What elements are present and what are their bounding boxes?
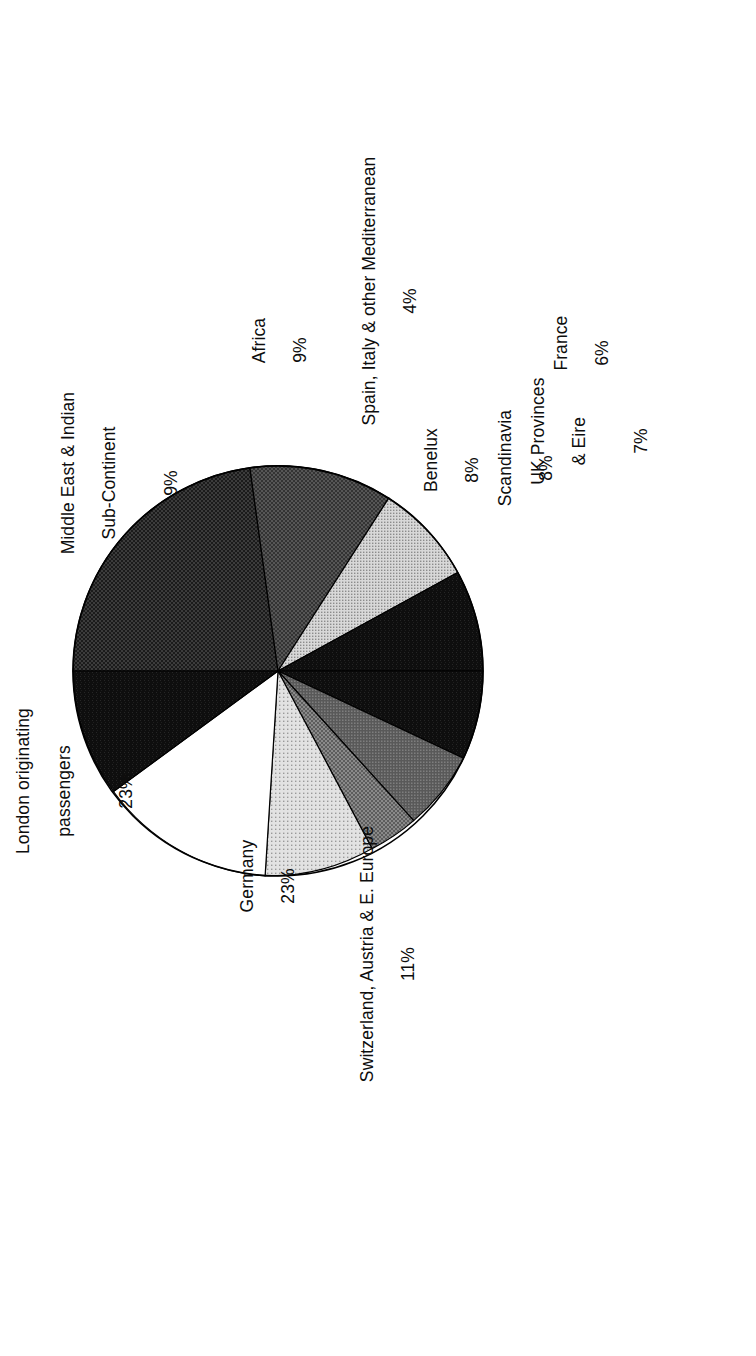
pie-label-switzerland-percent: 11% (398, 826, 419, 1102)
pie-label-middleeast-text-1: Middle East & Indian (58, 392, 78, 555)
pie-label-germany: Germany 23% (216, 840, 340, 933)
pie-label-ukprov-text-2: & Eire (569, 377, 590, 504)
pie-label-germany-text: Germany (237, 840, 257, 913)
pie-label-middleeast-percent: 9% (161, 392, 182, 574)
pie-label-france-text: France (551, 316, 571, 371)
pie-label-switzerland-text: Switzerland, Austria & E. Europe (357, 826, 377, 1082)
pie-label-london-originating-passengers: London originating passengers 23% (0, 708, 178, 874)
pie-label-africa-percent: 9% (290, 318, 311, 382)
pie-label-france-percent: 6% (592, 316, 613, 391)
pie-label-germany-percent: 23% (278, 840, 299, 933)
pie-label-france: France 6% (530, 316, 654, 391)
pie-label-switzerland-austria-e-europe: Switzerland, Austria & E. Europe 11% (336, 826, 460, 1102)
pie-label-london-percent: 23% (116, 708, 137, 874)
pie-label-africa-text: Africa (249, 318, 269, 363)
pie-label-middle-east-indian-sub-continent: Middle East & Indian Sub-Continent 9% (37, 392, 223, 574)
pie-label-africa: Africa 9% (228, 318, 352, 382)
pie-label-middleeast-text-2: Sub-Continent (99, 392, 120, 574)
pie-label-spain-italy-other-mediterranean: Spain, Italy & other Mediterranean 4% (338, 157, 462, 446)
pie-label-ukprov-percent: 7% (631, 377, 652, 504)
pie-label-london-text-1: London originating (13, 708, 33, 854)
pie-label-ukprov-text-1: UK Provinces (528, 377, 548, 484)
pie-label-spain-percent: 4% (400, 157, 421, 446)
figure-stage: Germany 23% Switzerland, Austria & E. Eu… (0, 0, 756, 1356)
pie-label-london-text-2: passengers (54, 708, 75, 874)
pie-label-uk-provinces-eire: UK Provinces & Eire 7% (507, 377, 693, 504)
pie-label-spain-text: Spain, Italy & other Mediterranean (359, 157, 379, 426)
